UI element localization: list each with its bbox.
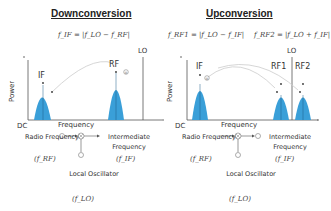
down-power-axis-label: Power [8,81,16,102]
svg-text:⊗: ⊗ [206,77,209,81]
up-rf-input-symbol: (f_RF) [190,155,212,163]
up-lo-label: LO [287,47,296,55]
down-rf-input-symbol: (f_RF) [34,155,56,163]
down-dc-label: DC [17,122,27,130]
up-lo-block-label: Local Oscillator [223,169,279,179]
down-frequency-axis-label: Frequency [58,121,94,129]
down-plot: ⊗ [23,56,164,121]
up-if-output-symbol: (f_IF) [275,155,294,163]
down-if-output-label: Intermediate Frequency [101,132,157,152]
down-rf-input-label: Radio Frequency [24,132,80,142]
up-if-label: IF [196,62,203,71]
upconversion-formula-1: f_RF1 = |f_LO − f_IF| [168,31,244,39]
svg-text:⊗: ⊗ [125,71,128,75]
up-frequency-axis-label: Frequency [221,121,257,129]
downconversion-formula: f_IF = |f_LO − f_RF| [58,31,130,39]
down-lo-block-label: Local Oscillator [66,169,122,179]
up-lo-symbol: (f_LO) [229,195,251,203]
up-power-axis-label: Power [166,81,174,102]
up-rf1-label: RF1 [271,62,286,71]
downconversion-title: Downconversion [51,8,132,19]
down-lo-symbol: (f_LO) [72,195,94,203]
down-if-output-symbol: (f_IF) [116,155,135,163]
down-rf-label: RF [109,60,119,69]
up-if-output-label: Intermediate Frequency [262,132,318,152]
down-lo-label: LO [138,47,147,55]
up-dc-label: DC [175,122,185,130]
down-if-label: IF [38,71,45,80]
up-rf2-label: RF2 [295,62,310,71]
upconversion-formula-2: f_RF2 = |f_LO + f_IF| [254,31,330,39]
upconversion-title: Upconversion [206,8,273,19]
up-rf-input-label: Radio Frequency [181,132,237,142]
